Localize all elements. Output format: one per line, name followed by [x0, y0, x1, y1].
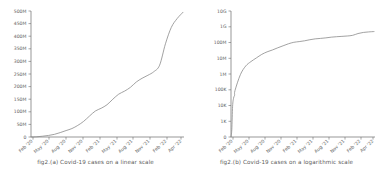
- log-xtick-label: Aug '21: [313, 138, 329, 154]
- linear-y-ticks: 0 50M 100M 150M 200M 250M 300M 350M 400M: [14, 9, 31, 140]
- log-ytick-label: 1M: [220, 72, 227, 77]
- log-xtick-label: May '21: [297, 138, 314, 154]
- log-ytick-label: 1G: [220, 24, 227, 29]
- log-y-ticks: 0 1K 10K 100K 1M 10M 100M 1G 10G: [214, 9, 231, 140]
- linear-ytick-label: 250M: [14, 72, 27, 77]
- log-ytick-label: 10M: [217, 56, 227, 61]
- linear-xtick-label: Feb '20: [18, 138, 34, 153]
- log-x-ticks: [233, 137, 373, 140]
- linear-x-tick-labels: Feb '20 May '20 Aug '20 Nov '20 Feb '21 …: [18, 138, 183, 154]
- linear-xtick-label: Apr '22: [167, 138, 183, 153]
- log-chart-svg: 0 1K 10K 100K 1M 10M 100M 1G 10G: [191, 0, 382, 160]
- linear-ytick-label: 400M: [14, 34, 27, 39]
- figure-page: 0 50M 100M 150M 200M 250M 300M 350M 400M: [0, 0, 382, 181]
- linear-ytick-label: 150M: [14, 97, 27, 102]
- linear-ytick-label: 0: [24, 135, 27, 140]
- linear-ytick-label: 500M: [14, 9, 27, 14]
- log-ytick-label: 100K: [215, 87, 228, 92]
- log-ytick-label: 10G: [217, 9, 227, 14]
- log-xtick-label: Aug '20: [249, 138, 265, 154]
- linear-xtick-label: May '21: [101, 138, 118, 154]
- log-xtick-label: Apr '22: [359, 138, 375, 153]
- linear-xtick-label: Aug '21: [117, 138, 133, 154]
- log-xtick-label: Nov '20: [265, 138, 281, 153]
- linear-chart-svg: 0 50M 100M 150M 200M 250M 300M 350M 400M: [0, 0, 191, 160]
- linear-xtick-label: Nov '21: [134, 138, 150, 153]
- linear-series-line: [31, 12, 183, 137]
- linear-ytick-label: 450M: [14, 21, 27, 26]
- caption-log: fig2.(b) Covid-19 cases on a logarithmic…: [191, 158, 382, 166]
- linear-ytick-label: 50M: [17, 122, 27, 127]
- log-ytick-label: 1K: [221, 119, 228, 124]
- linear-xtick-label: Nov '20: [67, 138, 83, 153]
- linear-ytick-label: 200M: [14, 84, 27, 89]
- caption-linear: fig2.(a) Covid-19 cases on a linear scal…: [0, 158, 191, 166]
- linear-xtick-label: Feb '21: [85, 138, 101, 153]
- log-x-tick-labels: Feb '20 May '20 Aug '20 Nov '20 Feb '21 …: [218, 138, 375, 154]
- linear-xtick-label: May '20: [33, 138, 50, 154]
- log-xtick-label: Feb '20: [218, 138, 234, 153]
- log-xtick-label: Feb '21: [282, 138, 298, 153]
- linear-ytick-label: 300M: [14, 59, 27, 64]
- linear-xtick-label: Aug '20: [50, 138, 66, 154]
- log-ytick-label: 100M: [214, 40, 227, 45]
- linear-xtick-label: Feb '22: [152, 138, 168, 153]
- log-ytick-label: 0: [224, 135, 227, 140]
- log-xtick-label: May '20: [233, 138, 250, 154]
- chart-panel-log: 0 1K 10K 100K 1M 10M 100M 1G 10G: [191, 0, 382, 181]
- log-ytick-label: 10K: [218, 103, 228, 108]
- log-series-line: [231, 32, 374, 137]
- chart-panel-linear: 0 50M 100M 150M 200M 250M 300M 350M 400M: [0, 0, 191, 181]
- linear-x-ticks: [33, 137, 181, 140]
- log-xtick-label: Nov '21: [329, 138, 345, 153]
- linear-ytick-label: 350M: [14, 46, 27, 51]
- linear-ytick-label: 100M: [14, 109, 27, 114]
